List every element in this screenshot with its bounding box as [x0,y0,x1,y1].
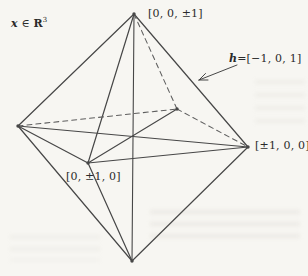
h-value: =[−1, 0, 1] [237,52,301,65]
vertex-dot-right [246,145,249,148]
annotation-x-in-r3: x ∈ R3 [11,17,48,30]
h-variable: h [229,52,237,65]
label-top-vertex: [0, 0, ±1] [148,7,203,20]
label-h-vector: h=[−1, 0, 1] [229,52,301,65]
dimension-superscript: 3 [43,16,48,24]
vertex-dot-front [86,161,89,164]
vertex-dot-back [175,107,178,110]
reals-symbol: R [34,17,43,30]
label-front-vertex: [0, ±1, 0] [66,170,121,183]
label-right-vertex: [±1, 0, 0] [255,139,308,152]
vertex-dot-bottom [130,259,133,262]
hidden-edge-top-back [134,14,177,109]
element-of-symbol: ∈ [21,17,29,30]
h-arrow-shaft [199,65,237,80]
edge-front-right [88,147,248,163]
figure-canvas: x ∈ R3 [0, 0, ±1] [±1, 0, 0] [0, ±1, 0] … [0,0,308,276]
x-variable: x [11,17,18,30]
edge-bottom-right [132,147,248,261]
edge-top-right [134,14,248,147]
vertex-dot-top [132,12,135,15]
vertex-dot-left [16,124,19,127]
octahedron-diagram [0,0,308,276]
axis-diagonal-top-bottom [132,14,134,261]
